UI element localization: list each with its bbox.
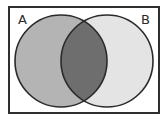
venn-diagram-svg: A B: [0, 0, 166, 120]
venn-diagram: A B: [0, 0, 166, 120]
set-b-label: B: [141, 12, 150, 27]
set-a-label: A: [18, 12, 27, 27]
